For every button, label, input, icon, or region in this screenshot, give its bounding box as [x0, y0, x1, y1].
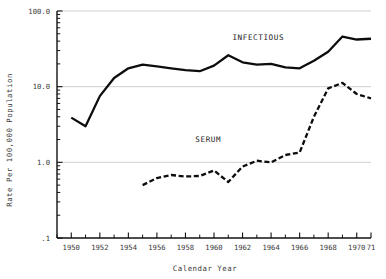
y-tick-label: .1 — [41, 234, 50, 243]
series-group — [71, 37, 371, 186]
x-tick-label: 1968 — [320, 243, 337, 252]
x-axis-group: 1950195219541956195819601962196419661968… — [57, 233, 375, 252]
x-tick-label: 1966 — [291, 243, 308, 252]
x-tick-label: 1956 — [148, 243, 165, 252]
x-tick-label: 1952 — [91, 243, 108, 252]
x-tick-label: 1962 — [234, 243, 251, 252]
series-annotation-serum: SERUM — [195, 135, 221, 144]
x-tick-label: 71 — [367, 243, 376, 252]
x-tick-label: 1958 — [177, 243, 194, 252]
series-line-serum — [143, 83, 371, 185]
x-tick-label: 1960 — [205, 243, 222, 252]
x-tick-label: 1954 — [120, 243, 137, 252]
x-tick-label: 1964 — [262, 243, 279, 252]
series-annotation-infectious: INFECTIOUS — [232, 33, 284, 42]
series-line-infectious — [71, 37, 371, 127]
chart-figure: 100.010.01.0.1 1950195219541956195819601… — [0, 0, 386, 279]
x-tick-label: 1970 — [348, 243, 365, 252]
line-chart-svg: 100.010.01.0.1 1950195219541956195819601… — [0, 0, 386, 279]
y-axis-group: 100.010.01.0.1 — [28, 7, 62, 243]
y-tick-label: 100.0 — [28, 7, 50, 16]
annotations-group: INFECTIOUSSERUM — [195, 33, 284, 145]
y-tick-label: 10.0 — [33, 82, 50, 91]
x-tick-label: 1950 — [63, 243, 80, 252]
y-tick-label: 1.0 — [37, 158, 50, 167]
x-axis-title: Calendar Year — [173, 264, 237, 273]
y-axis-title: Rate Per 100,000 Population — [5, 73, 14, 207]
